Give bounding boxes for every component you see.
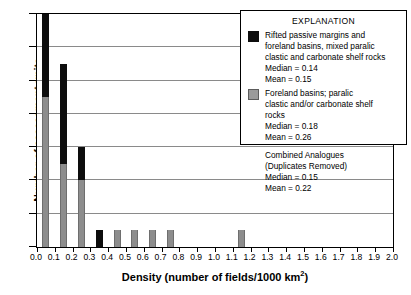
legend-text-line: Mean = 0.22 (265, 183, 400, 194)
bar (42, 14, 49, 247)
legend-text-line: Median = 0.14 (265, 63, 385, 74)
bar-segment-gray (78, 180, 85, 247)
bar-segment-gray (238, 230, 245, 247)
bar (78, 147, 85, 247)
bar (114, 230, 121, 247)
y-axis-tick (29, 179, 37, 180)
legend-text-line: Combined Analogues (265, 150, 400, 161)
x-axis-title-tail: ) (305, 271, 309, 283)
bar (238, 230, 245, 247)
histogram-chart: Number of assessment units 02468101214 0… (0, 0, 411, 295)
x-axis-tick-label: 2.0 (375, 252, 409, 262)
bar (131, 230, 138, 247)
bar-segment-black (78, 147, 85, 180)
legend-text-line: Median = 0.18 (265, 121, 373, 132)
legend-text-line: (Duplicates Removed) (265, 161, 400, 172)
legend-swatch-gray (248, 89, 259, 100)
y-axis-tick (29, 213, 37, 214)
bar-segment-black (96, 230, 103, 247)
bar-segment-gray (167, 230, 174, 247)
legend-text-line: clastic and carbonate shelf rocks (265, 52, 385, 63)
legend-entry-text: Rifted passive margins andforeland basin… (265, 30, 385, 85)
legend-entry-text: Foreland basins; paralicclastic and/or c… (265, 88, 373, 143)
legend-text-line: Median = 0.15 (265, 172, 400, 183)
legend-text-line: Mean = 0.15 (265, 74, 385, 85)
bar (167, 230, 174, 247)
bar-segment-gray (149, 230, 156, 247)
legend-swatch-black (248, 31, 259, 42)
legend-text-line: foreland basins, mixed paralic (265, 41, 385, 52)
bar (60, 64, 67, 247)
legend-text-line: Foreland basins; paralic (265, 88, 373, 99)
legend-combined-block: Combined Analogues(Duplicates Removed)Me… (265, 150, 400, 194)
y-axis-tick (29, 46, 37, 47)
y-axis-tick (29, 246, 37, 247)
legend-text-line: Mean = 0.26 (265, 132, 373, 143)
bar-segment-black (60, 64, 67, 164)
legend-entry: Rifted passive margins andforeland basin… (247, 30, 400, 85)
legend-text-line: Rifted passive margins and (265, 30, 385, 41)
bar-segment-gray (114, 230, 121, 247)
bar (149, 230, 156, 247)
legend-entry: Foreland basins; paralicclastic and/or c… (247, 88, 400, 143)
legend-entries: Rifted passive margins andforeland basin… (247, 30, 400, 143)
bar-segment-black (42, 14, 49, 97)
y-axis-tick (29, 146, 37, 147)
legend-title: EXPLANATION (247, 16, 400, 26)
legend-text-line: rocks (265, 110, 373, 121)
y-axis-tick (29, 80, 37, 81)
legend-box: EXPLANATION Rifted passive margins andfo… (240, 10, 407, 145)
y-axis-tick (29, 113, 37, 114)
bar-segment-gray (131, 230, 138, 247)
bar-segment-gray (60, 164, 67, 247)
legend-text-line: clastic and/or carbonate shelf (265, 99, 373, 110)
x-axis-title: Density (number of fields/1000 km2) (36, 269, 394, 283)
bar (96, 230, 103, 247)
y-axis-tick (29, 13, 37, 14)
bar-segment-gray (42, 97, 49, 247)
x-axis-title-base: Density (number of fields/1000 km (122, 271, 301, 283)
